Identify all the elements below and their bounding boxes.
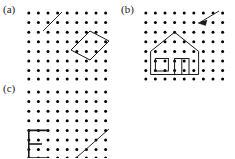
arrow-cursor-icon bbox=[198, 11, 219, 26]
rotated-rectangle-shape bbox=[71, 31, 109, 60]
diagonal-segment-icon bbox=[43, 12, 62, 31]
house-window-shape bbox=[155, 59, 168, 72]
panel-c-dot-grid bbox=[24, 89, 116, 158]
panel-c-label: (c) bbox=[3, 82, 15, 94]
dot-grid-points bbox=[27, 12, 107, 81]
panel-a-label: (a) bbox=[3, 3, 15, 15]
panel-a: (a) bbox=[0, 0, 118, 79]
diagonal-segment-icon bbox=[76, 129, 109, 158]
panel-c: (c) bbox=[0, 79, 118, 158]
dot-grid-points bbox=[144, 12, 224, 81]
figure-root: (a) bbox=[0, 0, 235, 158]
dot-grid-points bbox=[27, 91, 107, 159]
panel-b-label: (b) bbox=[121, 3, 134, 15]
panel-b-dot-grid bbox=[141, 10, 233, 82]
panel-b: (b) bbox=[118, 0, 235, 79]
panel-a-dot-grid bbox=[24, 10, 116, 82]
